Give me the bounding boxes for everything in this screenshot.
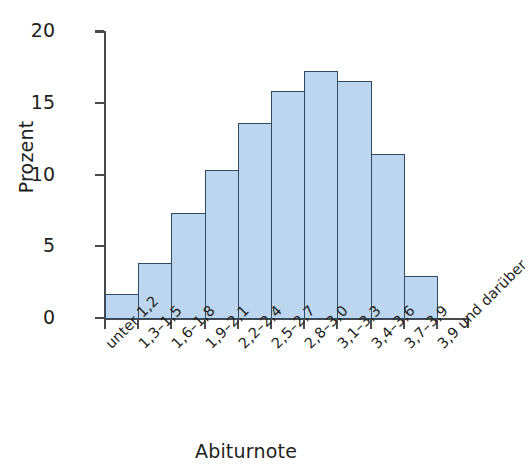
y-axis-tick	[95, 30, 104, 32]
x-axis-tick	[104, 320, 106, 329]
y-axis-tick-label: 20	[0, 21, 55, 40]
y-axis-tick	[95, 317, 104, 319]
y-axis-tick	[95, 102, 104, 104]
y-axis-tick-label: 15	[0, 93, 55, 112]
bar	[205, 170, 239, 319]
y-axis-tick-label: 0	[0, 308, 55, 327]
bar	[337, 81, 371, 319]
y-axis-tick	[95, 174, 104, 176]
y-axis-tick-label: 10	[0, 165, 55, 184]
bar	[271, 91, 305, 319]
bar	[238, 123, 272, 319]
bar	[171, 213, 205, 319]
y-axis-line	[104, 31, 106, 319]
bar	[371, 154, 405, 319]
x-axis-title: Abiturnote	[0, 440, 492, 462]
y-axis-tick-label: 5	[0, 236, 55, 255]
y-axis-tick	[95, 245, 104, 247]
bar	[304, 71, 338, 319]
x-axis-tick-label: 3,9 und darüber	[434, 256, 529, 351]
